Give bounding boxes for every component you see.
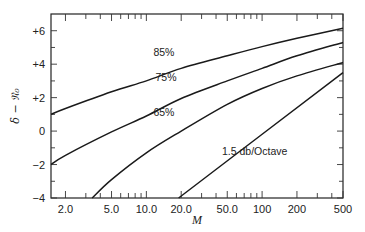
x-tick-label: 5.0 bbox=[104, 203, 119, 215]
curve-annotations: 85%75%65%1.5 db/Octave bbox=[153, 46, 287, 157]
x-tick-label: 50.0 bbox=[217, 203, 238, 215]
curve-85 bbox=[51, 28, 343, 114]
plot-area: 2.05.010.020.050.0100200500 +6+4+20−2−4 … bbox=[32, 14, 352, 215]
curve-1-5-db-octave bbox=[179, 73, 343, 198]
y-tick-label: −4 bbox=[32, 192, 45, 204]
x-axis-label: M bbox=[191, 213, 203, 227]
x-tick-label: 200 bbox=[288, 203, 306, 215]
x-tick-label: 10.0 bbox=[136, 203, 157, 215]
x-tick-label: 2.0 bbox=[58, 203, 73, 215]
curve-label-75: 75% bbox=[156, 71, 177, 83]
curve-75 bbox=[51, 42, 343, 164]
x-axis-ticks: 2.05.010.020.050.0100200500 bbox=[58, 14, 352, 215]
y-axis-label: δ − 𝔑₀ bbox=[9, 88, 22, 124]
y-tick-label: +2 bbox=[32, 92, 45, 104]
curve-65 bbox=[92, 63, 343, 198]
x-tick-label: 500 bbox=[334, 203, 352, 215]
curves bbox=[51, 28, 343, 198]
y-tick-label: −2 bbox=[32, 159, 45, 171]
y-axis-ticks: +6+4+20−2−4 bbox=[32, 25, 343, 204]
curve-label-85: 85% bbox=[153, 46, 174, 58]
curve-label-1-5-db-octave: 1.5 db/Octave bbox=[222, 145, 288, 157]
curve-label-65: 65% bbox=[153, 106, 174, 118]
x-tick-label: 100 bbox=[253, 203, 271, 215]
y-tick-label: +4 bbox=[32, 58, 45, 70]
x-tick-label: 20.0 bbox=[170, 203, 191, 215]
chart: 2.05.010.020.050.0100200500 +6+4+20−2−4 … bbox=[0, 0, 365, 232]
y-tick-label: 0 bbox=[39, 125, 45, 137]
y-tick-label: +6 bbox=[32, 25, 45, 37]
